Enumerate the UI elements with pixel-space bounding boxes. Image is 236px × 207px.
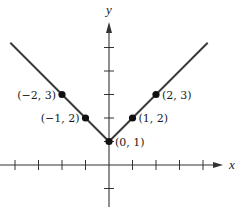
point-label: (2, 3): [162, 89, 192, 102]
chart-canvas: xy (−2, 3)(−1, 2)(0, 1)(1, 2)(2, 3): [0, 0, 236, 207]
y-axis-label: y: [104, 2, 112, 17]
y-axis-arrow-icon: [106, 22, 112, 33]
x-axis-arrow-icon: [213, 162, 223, 168]
point-label: (−2, 3): [17, 89, 56, 102]
data-point: [58, 91, 65, 98]
axes: xy: [0, 2, 235, 207]
data-point: [129, 114, 136, 121]
graph-abs-value: xy (−2, 3)(−1, 2)(0, 1)(1, 2)(2, 3): [0, 0, 236, 207]
data-point: [82, 114, 89, 121]
point-label: (1, 2): [139, 112, 169, 125]
data-point: [105, 138, 112, 145]
point-label: (0, 1): [115, 136, 145, 149]
x-axis-label: x: [228, 157, 235, 172]
point-label: (−1, 2): [41, 112, 80, 125]
data-point: [152, 91, 159, 98]
